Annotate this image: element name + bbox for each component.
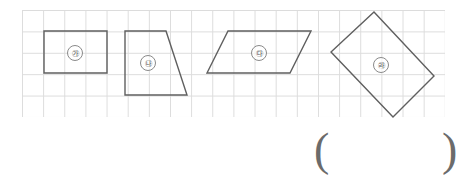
shape-label-a: ㉮ bbox=[67, 45, 83, 61]
shape-label-b: ㉯ bbox=[140, 55, 156, 71]
shape-label-d-text: ㉱ bbox=[377, 61, 384, 68]
shape-label-d: ㉱ bbox=[373, 57, 389, 73]
close-paren: ) bbox=[442, 128, 457, 172]
shape-label-c: ㉰ bbox=[251, 45, 267, 61]
worksheet-figure-panel: ㉮ ㉯ ㉰ ㉱ ( ) bbox=[0, 0, 474, 181]
answer-parenthesis-row: ( ) bbox=[310, 128, 460, 176]
shape-label-b-text: ㉯ bbox=[144, 59, 151, 66]
open-paren: ( bbox=[314, 128, 329, 172]
shape-label-c-text: ㉰ bbox=[255, 49, 262, 56]
answer-blank[interactable] bbox=[332, 136, 440, 168]
shape-label-a-text: ㉮ bbox=[71, 49, 78, 56]
